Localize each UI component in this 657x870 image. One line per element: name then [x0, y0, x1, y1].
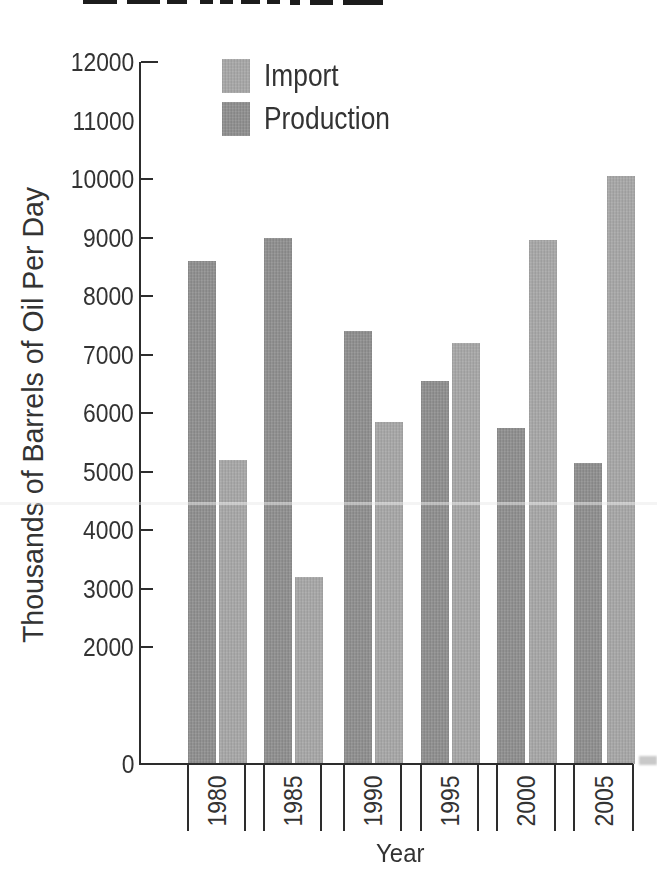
x-tick-label-1995: 1995: [435, 775, 464, 826]
bar-import-1990: [375, 422, 403, 764]
y-tick-label-9000: 9000: [0, 225, 134, 251]
y-tick-label-12000: 12000: [0, 49, 134, 75]
bar-production-1980: [188, 261, 216, 764]
y-tick-label-11000: 11000: [0, 108, 134, 134]
legend-entry-production: Production: [222, 101, 412, 137]
cropped-title-fragment: [310, 0, 333, 5]
x-tick-label-2000: 2000: [512, 775, 541, 826]
y-tick-label-5000: 5000: [0, 459, 134, 485]
cropped-title-fragment: [200, 0, 213, 4]
legend-label-import: Import: [264, 58, 339, 94]
y-tick-8000: [141, 295, 153, 297]
legend-label-production: Production: [264, 101, 390, 137]
x-tick-label-2005: 2005: [589, 775, 618, 826]
x-tick-label-1990: 1990: [358, 775, 387, 826]
y-tick-5000: [141, 471, 153, 473]
y-tick-10000: [141, 178, 153, 180]
bar-production-2000: [497, 428, 525, 764]
scan-artifact-line-overlay: [0, 502, 657, 505]
cropped-title-fragment: [241, 0, 260, 4]
y-tick-6000: [141, 412, 153, 414]
y-tick-label-4000: 4000: [0, 517, 134, 543]
cropped-title-fragment: [220, 0, 233, 4]
bar-production-2005: [574, 463, 602, 764]
y-tick-label-6000: 6000: [0, 400, 134, 426]
cropped-title-fragment: [290, 0, 300, 5]
y-tick-7000: [141, 354, 153, 356]
bar-production-1995: [421, 381, 449, 764]
y-tick-12000: [141, 61, 158, 63]
y-tick-label-2000: 2000: [0, 634, 134, 660]
y-tick-label-3000: 3000: [0, 576, 134, 602]
oil-bar-chart: Thousands of Barrels of Oil Per Day Impo…: [0, 0, 657, 870]
y-tick-3000: [141, 588, 153, 590]
y-tick-label-7000: 7000: [0, 342, 134, 368]
cropped-title-fragment: [127, 0, 160, 4]
legend-entry-import: Import: [222, 58, 352, 94]
y-tick-label-8000: 8000: [0, 283, 134, 309]
bar-import-1980: [219, 460, 247, 764]
bar-production-1990: [344, 331, 372, 764]
bar-import-1995: [452, 343, 480, 764]
y-tick-2000: [141, 646, 153, 648]
x-tick-label-1980: 1980: [202, 775, 231, 826]
x-tick-label-1985: 1985: [278, 775, 307, 826]
y-tick-9000: [141, 237, 153, 239]
y-tick-label-0: 0: [0, 751, 134, 777]
cropped-title-fragment: [267, 0, 280, 4]
legend-swatch-import: [222, 59, 250, 93]
cropped-title-fragment: [83, 0, 117, 4]
cropped-title-fragment: [167, 0, 187, 4]
bar-import-2005: [607, 176, 635, 764]
y-tick-4000: [141, 529, 153, 531]
legend-swatch-production: [222, 102, 250, 136]
bar-production-1985: [264, 238, 292, 765]
bar-import-1985: [295, 577, 323, 764]
scan-artifact-smudge: [639, 756, 657, 765]
x-axis-title: Year: [330, 838, 470, 869]
y-tick-label-10000: 10000: [0, 166, 134, 192]
cropped-title-fragment: [343, 0, 383, 5]
